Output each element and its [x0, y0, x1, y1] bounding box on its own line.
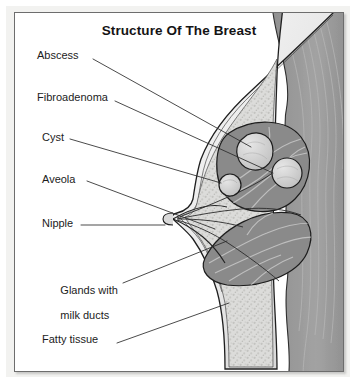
- mass-cyst: [219, 174, 241, 196]
- label-nipple: Nipple: [42, 217, 73, 230]
- label-aveola: Aveola: [42, 173, 75, 186]
- label-abscess: Abscess: [37, 49, 79, 62]
- fatty-tissue-region: [185, 59, 277, 367]
- label-glands-with-milk-ducts: Glands with milk ducts: [42, 271, 118, 334]
- label-cyst: Cyst: [42, 131, 64, 144]
- figure-title: Structure Of The Breast: [15, 23, 343, 38]
- mass-fibroadenoma: [272, 158, 302, 188]
- label-glands-line2: milk ducts: [60, 309, 109, 321]
- label-fatty-tissue: Fatty tissue: [42, 333, 98, 346]
- label-glands-line1: Glands with: [60, 284, 117, 296]
- leader-fatty: [117, 303, 229, 343]
- leader-abscess: [93, 59, 251, 147]
- figure-page: Structure Of The Breast Abscess Fibroade…: [0, 0, 356, 389]
- nipple-tip: [163, 213, 173, 225]
- label-fibroadenoma: Fibroadenoma: [37, 91, 108, 104]
- illustration-plate: Structure Of The Breast Abscess Fibroade…: [14, 12, 344, 372]
- leader-cyst: [70, 139, 221, 183]
